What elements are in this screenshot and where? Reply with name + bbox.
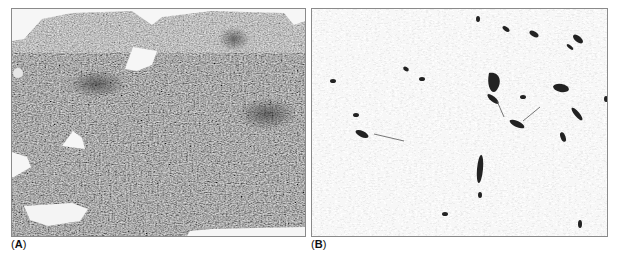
micrograph-panel-b [311, 8, 608, 237]
panel-label-a: (A) [11, 238, 26, 250]
tissue-image-a [12, 9, 305, 236]
micrograph-panel-a [11, 8, 306, 237]
tissue-image-b [312, 9, 607, 236]
panel-label-b: (B) [311, 238, 326, 250]
